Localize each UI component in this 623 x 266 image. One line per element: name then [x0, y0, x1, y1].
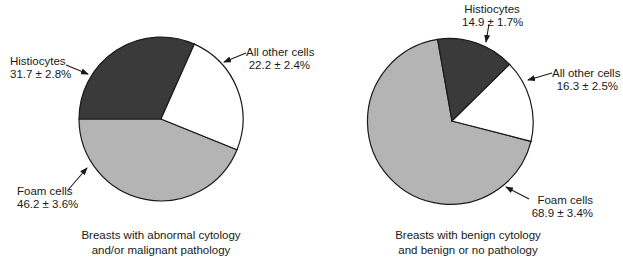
arrow-foam-right — [506, 187, 529, 199]
arrow-other-right — [528, 73, 552, 80]
label-histiocytes-left: Histiocytes 31.7 ± 2.8% — [10, 55, 71, 81]
pie-charts-canvas — [0, 0, 623, 266]
pie-left — [66, 37, 246, 201]
label-other-left: All other cells 22.2 ± 2.4% — [246, 46, 310, 72]
label-histiocytes-right: Histiocytes 14.9 ± 1.7% — [462, 3, 522, 29]
label-other-right: All other cells 16.3 ± 2.5% — [552, 67, 618, 93]
label-foam-right: Foam cells 68.9 ± 3.4% — [529, 194, 593, 220]
arrow-other-left — [224, 53, 246, 62]
pie-right — [367, 24, 552, 204]
label-foam-left: Foam cells 46.2 ± 3.6% — [17, 185, 78, 211]
caption-left: Breasts with abnormal cytology and/or ma… — [61, 228, 261, 258]
caption-right: Breasts with benign cytology and benign … — [368, 228, 568, 258]
